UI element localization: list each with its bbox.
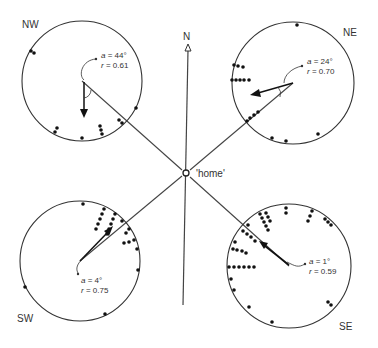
label-se: SE — [339, 321, 353, 332]
angle-nw: a = 44° — [101, 51, 127, 60]
r-nw: r = 0.61 — [101, 61, 129, 70]
label-ne: NE — [343, 27, 357, 38]
north-axis: N — [183, 31, 191, 305]
nw-home-line — [82, 81, 182, 170]
north-arrow-icon — [185, 44, 191, 51]
orientation-diagram: N 'home' NW a = 44° r = 0.61 NE — [0, 0, 378, 348]
sw-home-line — [80, 176, 182, 261]
angle-se: a = 1° — [309, 257, 330, 266]
panel-sw: SW a = 4° r = 0.75 — [17, 201, 140, 324]
r-ne: r = 0.70 — [307, 67, 335, 76]
r-sw: r = 0.75 — [81, 286, 109, 295]
home-marker-icon — [183, 170, 189, 176]
mean-vector-arrow-icon — [250, 89, 261, 97]
panel-se: SE a = 1° r = 0.59 — [227, 204, 353, 332]
ne-home-line — [190, 83, 293, 170]
panel-nw: NW a = 44° r = 0.61 — [22, 19, 142, 141]
north-label: N — [183, 31, 190, 42]
label-sw: SW — [17, 313, 34, 324]
home-label: 'home' — [196, 168, 225, 179]
label-nw: NW — [22, 19, 39, 30]
panel-ne: NE a = 24° r = 0.70 — [230, 22, 357, 144]
angle-ne: a = 24° — [307, 57, 333, 66]
r-se: r = 0.59 — [309, 267, 337, 276]
mean-vector-arrow-icon — [80, 109, 88, 118]
angle-sw: a = 4° — [81, 276, 102, 285]
